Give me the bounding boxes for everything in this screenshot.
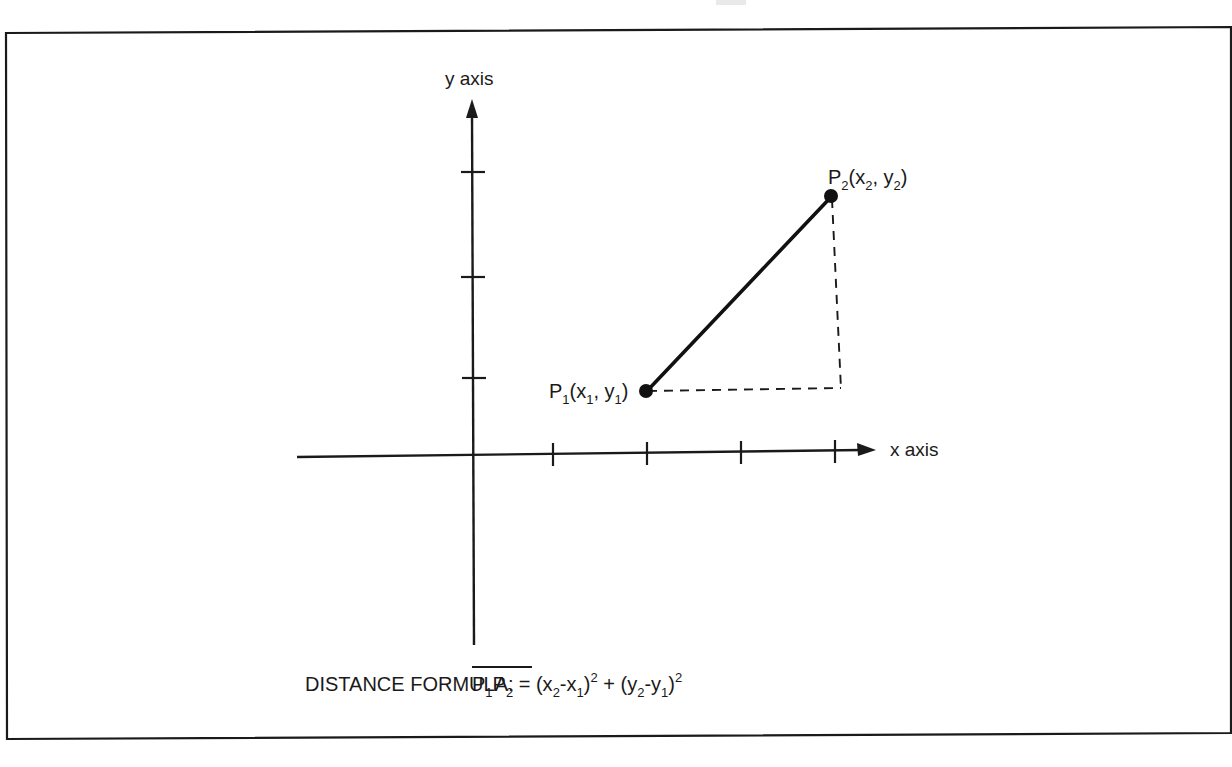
x-axis-line — [297, 450, 862, 457]
formula-seg-sub2: 2 — [506, 685, 513, 700]
p2-label-open: (x — [849, 166, 866, 188]
formula-seg-p2: P — [493, 673, 506, 695]
x-axis-arrowhead — [857, 443, 876, 456]
p1-label-subx: 1 — [586, 392, 593, 407]
point-p1-dot — [639, 384, 653, 398]
formula-term2-sub-b: 1 — [661, 685, 668, 700]
point-p2-label: P2(x2, y2) — [828, 166, 908, 193]
formula-term1-minus: -x — [560, 673, 577, 695]
distance-formula-expression: P1P2 = (x2-x1)2 + (y2-y1)2 — [472, 670, 682, 700]
formula-term1-exp: 2 — [590, 670, 597, 685]
formula-term2-open: (y — [620, 673, 637, 695]
p2-label-p: P — [828, 166, 841, 188]
formula-equals: = — [513, 673, 536, 695]
formula-term2-sub-a: 2 — [637, 685, 644, 700]
p1-label-close: ) — [622, 380, 629, 402]
vertical-leg-dashed — [832, 199, 841, 389]
p2-label-subx: 2 — [865, 178, 872, 193]
p1-label-open: (x — [570, 380, 587, 402]
distance-formula-figure: y axis x axis P1(x1, y1) P2(x2, y2) DIST… — [0, 0, 1232, 767]
formula-seg-sub1: 1 — [485, 685, 492, 700]
y-axis-arrowhead — [466, 99, 478, 118]
formula-term2-close: ) — [668, 673, 675, 695]
hypotenuse-segment — [647, 197, 831, 391]
page-scan-artifact — [716, 0, 746, 5]
p1-label-suby: 1 — [615, 392, 622, 407]
point-p1-label: P1(x1, y1) — [549, 380, 629, 407]
formula-term2-exp: 2 — [675, 670, 682, 685]
formula-term2-minus: -y — [644, 673, 661, 695]
figure-root: y axis x axis P1(x1, y1) P2(x2, y2) DIST… — [0, 0, 1232, 767]
formula-term1-open: (x — [536, 673, 553, 695]
p2-label-suby: 2 — [894, 178, 901, 193]
p2-label-close: ) — [901, 166, 908, 188]
formula-plus: + — [598, 673, 621, 695]
p1-label-sub: 1 — [562, 392, 569, 407]
point-p2-dot — [824, 189, 838, 203]
formula-seg-p1: P — [472, 673, 485, 695]
p2-label-sub: 2 — [841, 178, 848, 193]
p2-label-comma: , y — [872, 166, 893, 188]
formula-term1-sub-a: 2 — [553, 685, 560, 700]
figure-frame-border — [6, 27, 1231, 739]
formula-term1-sub-b: 1 — [577, 685, 584, 700]
p1-label-comma: , y — [593, 380, 614, 402]
p1-label-p: P — [549, 380, 562, 402]
horizontal-leg-dashed — [648, 388, 841, 391]
formula-term1-close: ) — [584, 673, 591, 695]
y-axis-label: y axis — [445, 68, 494, 89]
x-axis-label: x axis — [890, 439, 939, 460]
